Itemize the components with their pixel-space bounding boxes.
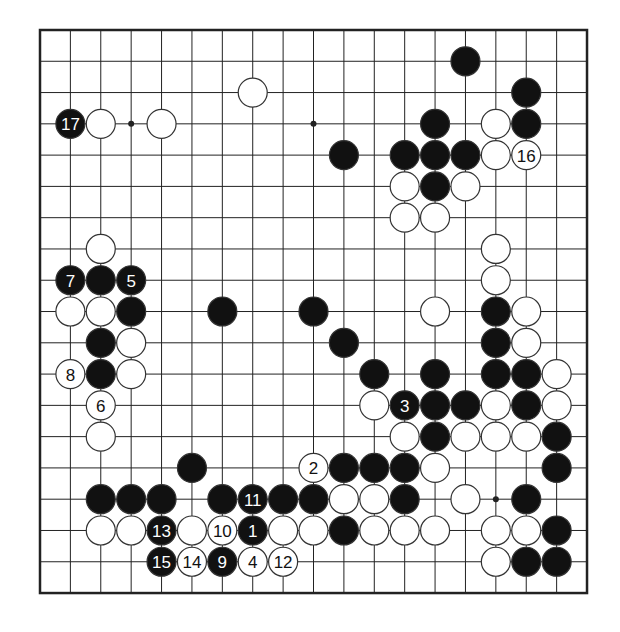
black-stone[interactable]: [177, 453, 206, 482]
white-stone[interactable]: [542, 360, 571, 389]
white-stone[interactable]: [177, 516, 206, 545]
black-stone[interactable]: 9: [208, 547, 237, 576]
black-stone[interactable]: 5: [117, 266, 146, 295]
white-stone[interactable]: [421, 297, 450, 326]
black-stone[interactable]: [329, 141, 358, 170]
black-stone[interactable]: [481, 360, 510, 389]
white-stone[interactable]: [86, 516, 115, 545]
white-stone[interactable]: [86, 234, 115, 263]
white-stone[interactable]: 6: [86, 391, 115, 420]
white-stone[interactable]: [481, 109, 510, 138]
black-stone[interactable]: [329, 453, 358, 482]
white-stone[interactable]: [451, 485, 480, 514]
black-stone[interactable]: [512, 360, 541, 389]
white-stone[interactable]: 14: [177, 547, 206, 576]
black-stone[interactable]: [86, 266, 115, 295]
black-stone[interactable]: [329, 328, 358, 357]
white-stone[interactable]: [390, 516, 419, 545]
black-stone[interactable]: [86, 360, 115, 389]
white-stone[interactable]: [451, 172, 480, 201]
black-stone[interactable]: [542, 547, 571, 576]
black-stone[interactable]: [86, 328, 115, 357]
black-stone[interactable]: [360, 360, 389, 389]
white-stone[interactable]: [481, 234, 510, 263]
black-stone[interactable]: [512, 109, 541, 138]
white-stone[interactable]: [360, 516, 389, 545]
black-stone[interactable]: [117, 485, 146, 514]
black-stone[interactable]: [512, 78, 541, 107]
white-stone[interactable]: [421, 203, 450, 232]
black-stone[interactable]: [542, 422, 571, 451]
white-stone[interactable]: [147, 109, 176, 138]
black-stone[interactable]: 13: [147, 516, 176, 545]
black-stone[interactable]: [481, 297, 510, 326]
white-stone[interactable]: [117, 516, 146, 545]
white-stone[interactable]: [56, 297, 85, 326]
black-stone[interactable]: [421, 141, 450, 170]
black-stone[interactable]: [421, 391, 450, 420]
white-stone[interactable]: [86, 422, 115, 451]
white-stone[interactable]: [421, 453, 450, 482]
white-stone[interactable]: 4: [238, 547, 267, 576]
white-stone[interactable]: [481, 266, 510, 295]
white-stone[interactable]: 16: [512, 141, 541, 170]
black-stone[interactable]: [299, 485, 328, 514]
black-stone[interactable]: [512, 485, 541, 514]
black-stone[interactable]: 17: [56, 109, 85, 138]
white-stone[interactable]: [512, 516, 541, 545]
black-stone[interactable]: [390, 453, 419, 482]
white-stone[interactable]: 2: [299, 453, 328, 482]
black-stone[interactable]: [390, 485, 419, 514]
black-stone[interactable]: [360, 453, 389, 482]
white-stone[interactable]: [421, 516, 450, 545]
black-stone[interactable]: [86, 485, 115, 514]
white-stone[interactable]: [481, 547, 510, 576]
white-stone[interactable]: [86, 109, 115, 138]
white-stone[interactable]: [360, 391, 389, 420]
black-stone[interactable]: 1: [238, 516, 267, 545]
white-stone[interactable]: [299, 516, 328, 545]
white-stone[interactable]: [481, 516, 510, 545]
white-stone[interactable]: [542, 391, 571, 420]
white-stone[interactable]: [390, 203, 419, 232]
black-stone[interactable]: [421, 422, 450, 451]
white-stone[interactable]: [269, 516, 298, 545]
white-stone[interactable]: [481, 141, 510, 170]
white-stone[interactable]: [512, 422, 541, 451]
black-stone[interactable]: [481, 328, 510, 357]
black-stone[interactable]: [147, 485, 176, 514]
go-board[interactable]: 1775311131159168621014412: [0, 0, 620, 632]
white-stone[interactable]: [117, 360, 146, 389]
white-stone[interactable]: [390, 422, 419, 451]
black-stone[interactable]: [117, 297, 146, 326]
white-stone[interactable]: [86, 297, 115, 326]
black-stone[interactable]: 7: [56, 266, 85, 295]
black-stone[interactable]: 3: [390, 391, 419, 420]
white-stone[interactable]: 12: [269, 547, 298, 576]
black-stone[interactable]: [512, 391, 541, 420]
black-stone[interactable]: 15: [147, 547, 176, 576]
white-stone[interactable]: [390, 172, 419, 201]
white-stone[interactable]: [329, 485, 358, 514]
black-stone[interactable]: [421, 172, 450, 201]
black-stone[interactable]: [451, 141, 480, 170]
white-stone[interactable]: [481, 391, 510, 420]
white-stone[interactable]: [481, 422, 510, 451]
white-stone[interactable]: [360, 485, 389, 514]
black-stone[interactable]: [421, 109, 450, 138]
black-stone[interactable]: [390, 141, 419, 170]
white-stone[interactable]: [238, 78, 267, 107]
white-stone[interactable]: [512, 297, 541, 326]
black-stone[interactable]: 11: [238, 485, 267, 514]
black-stone[interactable]: [542, 516, 571, 545]
black-stone[interactable]: [208, 485, 237, 514]
white-stone[interactable]: [451, 422, 480, 451]
white-stone[interactable]: 8: [56, 360, 85, 389]
white-stone[interactable]: 10: [208, 516, 237, 545]
black-stone[interactable]: [329, 516, 358, 545]
black-stone[interactable]: [542, 453, 571, 482]
black-stone[interactable]: [208, 297, 237, 326]
black-stone[interactable]: [451, 47, 480, 76]
black-stone[interactable]: [451, 391, 480, 420]
black-stone[interactable]: [421, 360, 450, 389]
